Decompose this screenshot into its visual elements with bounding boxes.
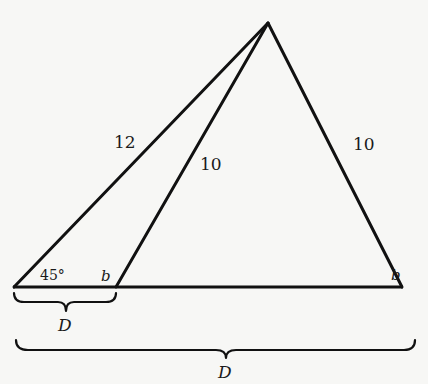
small-brace-label: D xyxy=(57,315,72,335)
left-angle-label: 45° xyxy=(40,267,65,283)
right-side xyxy=(268,23,402,287)
inner-side xyxy=(116,23,268,287)
left-side xyxy=(14,23,268,287)
inner-side-label: 10 xyxy=(200,154,222,174)
right-angle-label: b xyxy=(391,266,401,284)
diagram-svg: 12 10 10 45° b b D D xyxy=(0,0,428,384)
left-side-label: 12 xyxy=(114,132,136,152)
triangle-diagram: 12 10 10 45° b b D D xyxy=(0,0,428,384)
large-brace-label: D xyxy=(217,362,232,382)
small-brace xyxy=(14,293,116,311)
large-brace xyxy=(16,340,415,358)
right-side-label: 10 xyxy=(353,134,375,154)
middle-angle-label: b xyxy=(101,267,111,285)
